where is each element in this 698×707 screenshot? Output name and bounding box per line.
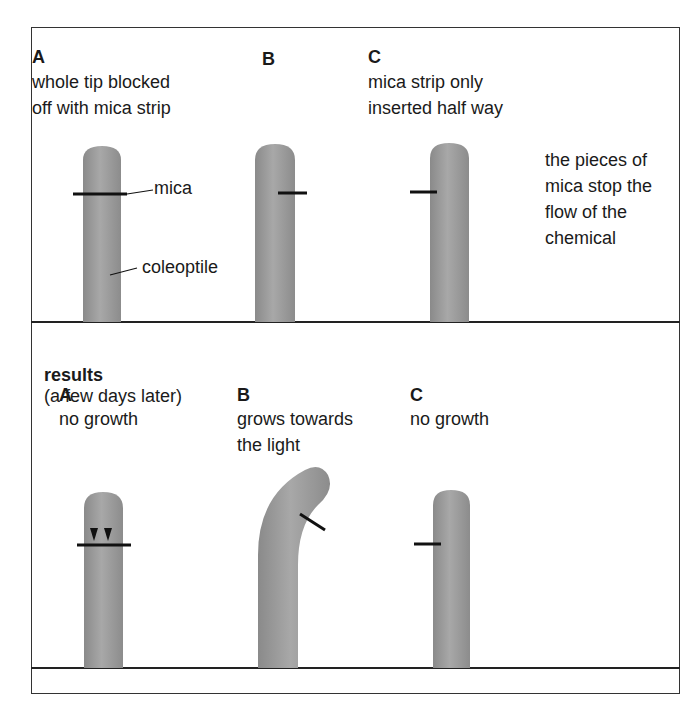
label-setup-c: C [368, 47, 381, 68]
result-b-line2: the light [237, 435, 300, 456]
results-heading-bold: results [44, 365, 103, 385]
result-b-line1: grows towards [237, 409, 353, 430]
note-line4: chemical [545, 225, 616, 251]
note-line1: the pieces of [545, 147, 647, 173]
coleoptile-label: coleoptile [142, 257, 218, 278]
coleoptile-setup-c [410, 143, 469, 322]
coleoptile-result-c [414, 490, 470, 668]
setup-c-line2: inserted half way [368, 98, 503, 119]
results-heading: results (a few days later) [34, 344, 182, 407]
mica-label: mica [154, 178, 192, 199]
note-line3: flow of the [545, 199, 627, 225]
result-c-line1: no growth [410, 409, 489, 430]
coleoptile-result-b [258, 467, 330, 668]
setup-c-line1: mica strip only [368, 72, 483, 93]
label-setup-a: A [32, 47, 45, 68]
setup-a-line1: whole tip blocked [32, 72, 170, 93]
coleoptile-result-a [77, 492, 131, 668]
label-result-a: A [59, 385, 72, 406]
coleoptile-setup-a [73, 146, 153, 322]
note-line2: mica stop the [545, 173, 652, 199]
coleoptile-setup-b [255, 144, 307, 322]
result-a-line1: no growth [59, 409, 138, 430]
label-result-b: B [237, 385, 250, 406]
label-setup-b: B [262, 49, 275, 70]
label-result-c: C [410, 385, 423, 406]
setup-a-line2: off with mica strip [32, 98, 171, 119]
